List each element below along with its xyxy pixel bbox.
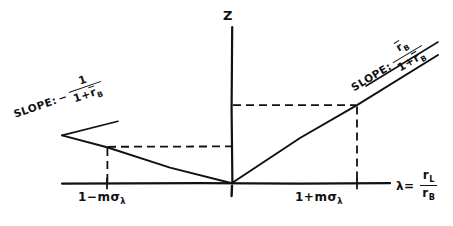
tick-left-term-sub: λ <box>120 196 126 206</box>
left-branch-line <box>62 135 231 183</box>
tick-right-prefix: 1 <box>295 190 304 204</box>
y-axis-title: Z <box>223 8 233 23</box>
tick-right-term: mσ <box>314 190 337 204</box>
x-axis-title: λ= rL rB <box>396 170 438 202</box>
tick-label-left: 1−mσλ <box>78 190 126 206</box>
lambda-symbol: λ <box>396 179 404 193</box>
ratio-numerator-sub: L <box>429 174 435 184</box>
ratio-numerator: rL <box>421 169 437 185</box>
slope-left-title: SLOPE: <box>12 94 58 120</box>
r-ratio-fraction: rL rB <box>420 169 437 201</box>
right-branch-line <box>232 55 438 183</box>
tick-right-operator: + <box>304 190 315 204</box>
y-axis-line <box>232 27 233 183</box>
equals-symbol: = <box>404 179 415 193</box>
tick-left-term: mσ <box>97 190 120 204</box>
tick-left-operator: − <box>87 190 98 204</box>
figure-canvas: Z λ= rL rB 1−mσλ 1+mσλ SLOPE: − 1 1+rB S… <box>0 0 453 226</box>
tick-left-prefix: 1 <box>78 190 87 204</box>
ratio-denominator: rB <box>420 185 437 202</box>
diagram-strokes <box>0 0 453 226</box>
tick-right-term-sub: λ <box>337 196 343 206</box>
tick-label-right: 1+mσλ <box>295 190 343 206</box>
ratio-denominator-sub: B <box>429 192 436 202</box>
slope-left-underline <box>62 121 118 135</box>
slope-left-sign: − <box>56 90 69 104</box>
